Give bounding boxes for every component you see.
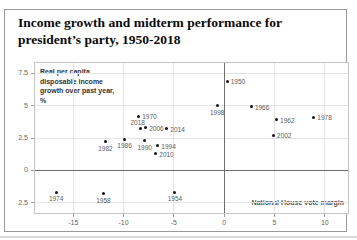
chart-card: Income growth and midterm performance fo… [4, 9, 347, 232]
point-label-2018: 2018 [125, 119, 151, 126]
data-point-1978 [312, 116, 315, 119]
point-label-1966: 1966 [255, 104, 269, 111]
x-tick-mark [123, 214, 124, 217]
point-label-1962: 1962 [280, 117, 294, 124]
y-zero-axis-line [35, 170, 348, 171]
x-axis-label: National House vote margin [248, 198, 344, 208]
y-tick-mark [31, 105, 34, 106]
data-point-1962 [275, 118, 278, 121]
x-zero-axis-line [224, 63, 225, 213]
y-tick-label: 7.5 [4, 69, 28, 77]
data-point-2010 [154, 152, 157, 155]
point-label-1950: 1950 [231, 78, 245, 85]
point-label-1954: 1954 [162, 195, 188, 202]
point-label-1990: 1990 [132, 144, 158, 151]
x-tick-mark [73, 214, 74, 217]
y-gridline [35, 105, 348, 106]
data-point-2014 [165, 127, 168, 130]
x-tick-label: -10 [112, 219, 136, 227]
x-tick-label: -15 [61, 219, 85, 227]
data-point-1970 [137, 115, 140, 118]
x-tick-mark [324, 214, 325, 217]
data-point-1950 [226, 80, 229, 83]
data-point-2002 [272, 134, 275, 137]
y-tick-mark [31, 202, 34, 203]
plot-area: Real per capita disposable income growth… [34, 62, 349, 214]
data-point-1982 [104, 140, 107, 143]
x-tick-mark [173, 214, 174, 217]
chart-title: Income growth and midterm performance fo… [5, 10, 348, 49]
y-tick-mark [31, 73, 34, 74]
data-point-1974 [55, 191, 58, 194]
y-tick-mark [31, 170, 34, 171]
page-edge-shadow [0, 236, 357, 238]
point-label-1998: 1998 [204, 109, 230, 116]
x-tick-mark [224, 214, 225, 217]
point-label-1958: 1958 [90, 197, 116, 204]
point-label-2006: 2006 [149, 125, 163, 132]
data-point-1998 [216, 104, 219, 107]
point-label-1974: 1974 [43, 195, 69, 202]
y-tick-label: 2.5 [4, 199, 28, 207]
y-tick-label: 5 [4, 102, 28, 110]
data-point-1990 [143, 139, 146, 142]
y-gridline [35, 202, 348, 203]
point-label-2014: 2014 [170, 126, 184, 133]
data-point-2018 [139, 127, 142, 130]
point-label-2010: 2010 [159, 151, 173, 158]
y-gridline [35, 73, 348, 74]
y-tick-label: 0 [4, 166, 28, 174]
data-point-1954 [173, 191, 176, 194]
data-point-1966 [250, 105, 253, 108]
page: Income growth and midterm performance fo… [0, 0, 357, 240]
x-tick-label: 5 [263, 219, 287, 227]
point-label-1978: 1978 [317, 114, 331, 121]
point-label-1994: 1994 [161, 143, 175, 150]
data-point-1994 [156, 144, 159, 147]
point-label-2002: 2002 [277, 132, 291, 139]
data-point-1958 [102, 192, 105, 195]
y-gridline [35, 138, 348, 139]
y-tick-label: 2.5 [4, 134, 28, 142]
x-tick-label: 10 [313, 219, 337, 227]
x-tick-label: 0 [212, 219, 236, 227]
y-tick-mark [31, 138, 34, 139]
data-point-1986 [123, 138, 126, 141]
x-tick-mark [274, 214, 275, 217]
data-point-2006 [144, 126, 147, 129]
x-tick-label: -5 [162, 219, 186, 227]
